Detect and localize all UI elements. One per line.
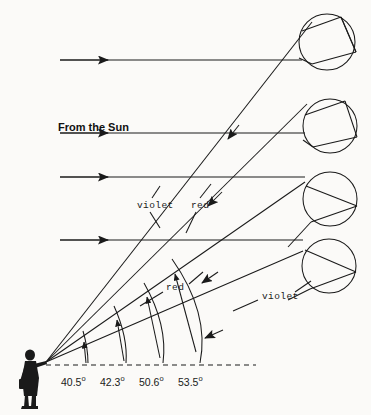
sun-rays-group [60,60,305,240]
angle-label-53-5: 53.5o [178,374,203,388]
raindrop-2 [303,99,357,153]
degree-icon-42-3: o [120,374,124,383]
rainbow-diagram: From the Sun violet red red violet 40.5o… [0,0,371,415]
diagram-canvas [0,0,371,415]
ray-red-upper [46,104,307,362]
ray-label-violet-upper: violet [137,200,174,211]
angle-arrow-50-6 [147,297,160,358]
degree-icon-40-5: o [81,374,85,383]
leader-red-upper [200,184,211,198]
arc-53-5 [172,259,202,363]
ray-violet-upper [46,22,312,362]
ray-label-red-upper: red [191,200,209,211]
raindrop-3 [288,172,357,247]
degree-icon-50-6: o [159,374,163,383]
ray-label-violet-lower: violet [262,291,299,302]
leader-violet-upper-top [152,186,160,198]
leader-violet-upper [150,212,160,228]
arc-50-6 [144,283,164,363]
angle-value-42-3: 42.3 [100,376,120,388]
raindrop-1 [299,14,356,70]
leader-violet-lower-left [233,300,258,311]
angle-arrow-42-3 [117,320,124,361]
angle-arcs-group [83,259,202,363]
angle-value-53-5: 53.5 [178,376,198,388]
angle-value-50-6: 50.6 [139,376,159,388]
arc-42-3 [114,306,126,363]
angle-label-40-5: 40.5o [61,374,86,388]
observer-silhouette [19,349,47,409]
angle-label-50-6: 50.6o [139,374,164,388]
angle-value-40-5: 40.5 [61,376,81,388]
from-the-sun-label: From the Sun [58,121,129,133]
degree-icon-53-5: o [198,374,202,383]
ray-red-lower [46,182,305,362]
leader-red-lower-up [189,272,203,284]
ray-label-red-lower: red [166,282,184,293]
angle-label-42-3: 42.3o [100,374,125,388]
